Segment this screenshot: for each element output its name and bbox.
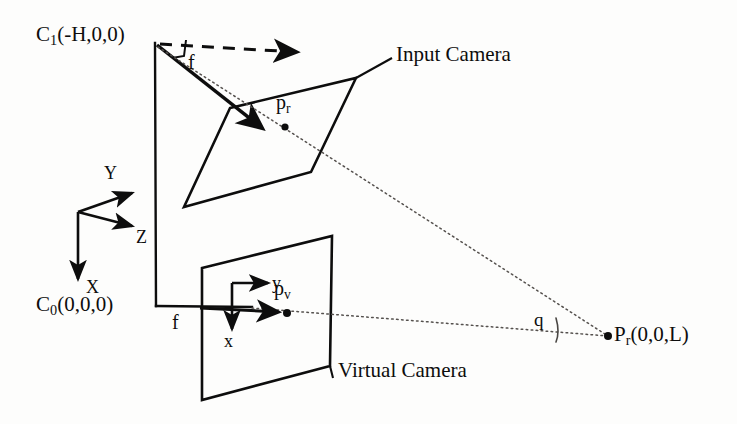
virtual-camera-image-plane xyxy=(202,236,332,400)
label-image-axis-y: y xyxy=(272,274,281,292)
angle-q-arc xyxy=(556,318,558,342)
virtual-camera-leader xyxy=(330,366,333,378)
label-world-axis-x: X xyxy=(86,278,99,296)
label-image-point-input: pr xyxy=(276,92,291,115)
input-camera-leader xyxy=(356,58,392,78)
input-camera-angle-arc xyxy=(172,40,186,58)
label-scene-point: Pr(0,0,L) xyxy=(614,324,689,347)
label-c1-symbol: C xyxy=(36,22,50,46)
world-axis-z-arrow xyxy=(78,212,132,226)
scene-point-dot xyxy=(604,332,612,340)
label-focal-length-virtual: f xyxy=(172,312,179,332)
label-focal-length-input: f xyxy=(188,52,195,72)
label-input-camera: Input Camera xyxy=(396,44,511,65)
label-angle-q: q xyxy=(534,310,544,329)
label-virtual-camera: Virtual Camera xyxy=(338,360,467,381)
virtual-ray-to-scene-point xyxy=(252,308,608,336)
camera-geometry-diagram: C1(-H,0,0) C0(0,0,0) Input Camera Virtua… xyxy=(0,0,737,424)
input-focal-axis-arrow xyxy=(160,44,296,52)
label-pr-img-subscript: r xyxy=(286,101,291,116)
label-image-axis-x: x xyxy=(224,332,233,350)
label-world-axis-z: Z xyxy=(136,228,147,246)
label-pv-subscript: v xyxy=(284,287,291,302)
virtual-camera-view-ray xyxy=(200,308,278,312)
label-world-axis-y: Y xyxy=(104,164,117,182)
input-camera-view-ray xyxy=(157,45,262,128)
label-pr-symbol: P xyxy=(614,322,626,346)
label-virtual-camera-center: C0(0,0,0) xyxy=(36,294,113,317)
image-point-input-dot xyxy=(281,123,288,130)
label-pr-img-symbol: p xyxy=(276,91,286,113)
input-ray-to-scene-point xyxy=(158,47,608,336)
world-axis-y-arrow xyxy=(78,193,132,212)
image-point-virtual-dot xyxy=(283,309,291,317)
label-c0-symbol: C xyxy=(36,292,50,316)
world-coordinate-axes xyxy=(78,193,132,279)
label-pr-coords: (0,0,L) xyxy=(630,322,688,346)
input-camera-image-plane xyxy=(184,78,356,207)
label-input-camera-center: C1(-H,0,0) xyxy=(36,24,125,47)
label-c1-coords: (-H,0,0) xyxy=(57,22,125,46)
